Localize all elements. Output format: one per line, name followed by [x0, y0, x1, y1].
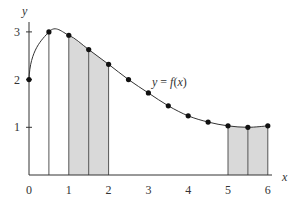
data-point [146, 90, 151, 95]
x-axis-label: x [281, 170, 288, 184]
data-point [265, 123, 270, 128]
y-tick-label: 1 [14, 120, 20, 134]
x-tick-label: 3 [145, 183, 151, 197]
x-tick-label: 4 [185, 183, 191, 197]
x-tick-label: 6 [265, 183, 271, 197]
y-tick-label: 3 [14, 25, 20, 39]
data-point [86, 47, 91, 52]
data-point [245, 125, 250, 130]
y-axis-label: y [21, 4, 28, 18]
data-point [106, 62, 111, 67]
x-tick-label: 5 [225, 183, 231, 197]
curve-label: y = f(x) [151, 75, 187, 89]
x-tick-label: 1 [66, 183, 72, 197]
data-point [26, 77, 31, 82]
data-point [225, 123, 230, 128]
data-point [66, 33, 71, 38]
data-points [26, 29, 270, 130]
curve-f-of-x [29, 29, 268, 127]
data-point [46, 29, 51, 34]
riemann-sum-chart: 123 0123456 x y y = f(x) [0, 0, 293, 208]
data-point [186, 113, 191, 118]
data-point [126, 77, 131, 82]
x-tick-label: 2 [106, 183, 112, 197]
data-point [206, 119, 211, 124]
data-point [166, 103, 171, 108]
x-ticks: 0123456 [26, 183, 271, 197]
x-tick-label: 0 [26, 183, 32, 197]
y-tick-label: 2 [14, 73, 20, 87]
